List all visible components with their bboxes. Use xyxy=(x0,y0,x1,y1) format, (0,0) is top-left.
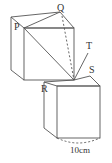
lower-cube xyxy=(44,76,100,143)
upper-cube xyxy=(11,12,88,80)
label-t: T xyxy=(86,41,92,51)
label-r: R xyxy=(41,84,48,94)
dimension-label: 10cm xyxy=(70,146,90,155)
top-diagonal-pq xyxy=(24,12,60,28)
dimension-arc xyxy=(57,138,100,143)
label-q: Q xyxy=(57,3,64,13)
label-s: S xyxy=(89,65,95,75)
diagonal-p xyxy=(24,28,74,80)
label-p: P xyxy=(14,22,20,32)
leader-t xyxy=(74,53,88,80)
